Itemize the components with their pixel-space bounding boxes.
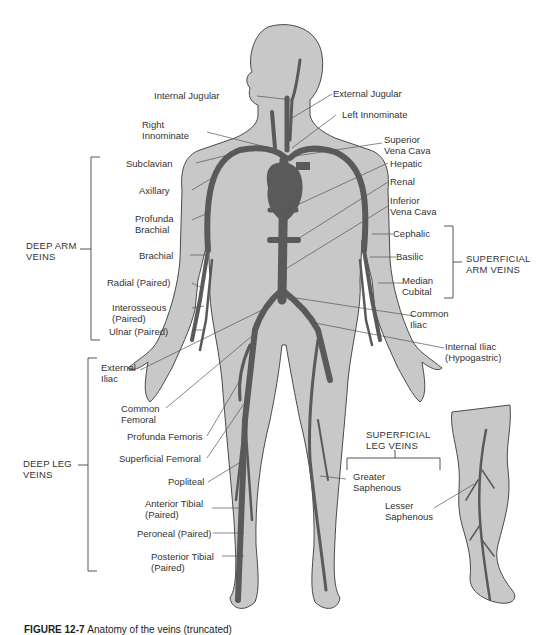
label-brachial: Brachial — [139, 250, 173, 261]
group-deep-arm-veins: DEEP ARM VEINS — [26, 240, 77, 262]
label-internal-jugular: Internal Jugular — [154, 90, 219, 101]
label-median-cubital: Median Cubital — [402, 275, 433, 297]
label-lesser-saphenous: Lesser Saphenous — [385, 500, 433, 522]
group-superficial-arm-veins: SUPERFICIAL ARM VEINS — [466, 253, 531, 275]
label-subclavian: Subclavian — [126, 158, 172, 169]
label-greater-saphenous: Greater Saphenous — [353, 471, 401, 493]
label-cephalic: Cephalic — [393, 228, 430, 239]
label-inferior-vena-cava: Inferior Vena Cava — [390, 195, 436, 217]
label-ulnar: Ulnar (Paired) — [109, 326, 168, 337]
label-left-innominate: Left Innominate — [342, 109, 408, 120]
label-interosseous: Interosseous (Paired) — [112, 302, 166, 324]
venous-system-figure — [0, 0, 552, 635]
label-superficial-femoral: Superficial Femoral — [119, 453, 201, 464]
label-profunda-brachial: Profunda Brachial — [135, 213, 174, 235]
label-profunda-femoris: Profunda Femoris — [127, 431, 203, 442]
label-anterior-tibial: Anterior Tibial (Paired) — [145, 498, 203, 520]
heart-vessel — [296, 162, 310, 170]
group-superficial-leg-veins: SUPERFICIAL LEG VEINS — [366, 429, 431, 451]
label-common-iliac: Common Iliac — [410, 308, 449, 330]
label-superior-vena-cava: Superior Vena Cava — [384, 134, 430, 156]
label-internal-iliac: Internal Iliac (Hypogastric) — [445, 341, 502, 363]
label-axillary: Axillary — [139, 185, 170, 196]
figure-caption-text: Anatomy of the veins (truncated) — [87, 624, 232, 635]
label-peroneal: Peroneal (Paired) — [137, 528, 211, 539]
label-renal: Renal — [390, 176, 415, 187]
label-common-femoral: Common Femoral — [121, 403, 160, 425]
label-hepatic: Hepatic — [390, 158, 422, 169]
label-basilic: Basilic — [396, 251, 423, 262]
label-radial: Radial (Paired) — [107, 277, 170, 288]
figure-caption: FIGURE 12-7 Anatomy of the veins (trunca… — [24, 624, 232, 635]
label-external-jugular: External Jugular — [333, 88, 402, 99]
label-external-iliac: External Iliac — [101, 362, 136, 384]
label-posterior-tibial: Posterior Tibial (Paired) — [151, 551, 214, 573]
group-deep-leg-veins: DEEP LEG VEINS — [23, 458, 72, 480]
label-right-innominate: Right Innominate — [142, 119, 189, 141]
figure-number: FIGURE 12-7 — [24, 624, 85, 635]
label-popliteal: Popliteal — [168, 476, 204, 487]
body-silhouette — [128, 25, 515, 609]
